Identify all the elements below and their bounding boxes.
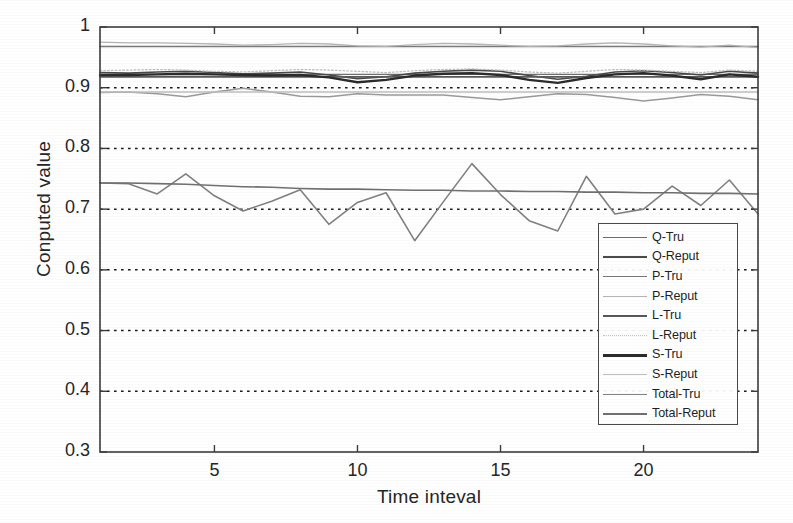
legend-item-total-tru: Total-Tru <box>599 384 737 404</box>
x-tick-label: 20 <box>619 460 669 481</box>
legend-item-s-reput: S-Reput <box>599 364 737 384</box>
legend-line-swatch <box>603 271 647 281</box>
legend-item-label: S-Tru <box>652 347 683 361</box>
legend-item-label: Total-Reput <box>652 406 715 420</box>
legend-item-q-reput: Q-Reput <box>599 247 737 267</box>
legend-item-p-reput: P-Reput <box>599 286 737 306</box>
legend-item-label: Total-Tru <box>652 387 700 401</box>
legend-item-label: S-Reput <box>652 367 698 381</box>
legend-item-label: Q-Tru <box>652 230 684 244</box>
x-axis-title: Time inteval <box>100 486 758 508</box>
legend-item-label: L-Reput <box>652 328 696 342</box>
y-tick-label: 0.6 <box>26 258 90 279</box>
legend-line-swatch <box>603 408 647 418</box>
legend: Q-TruQ-ReputP-TruP-ReputL-TruL-ReputS-Tr… <box>598 223 738 425</box>
legend-item-label: Q-Reput <box>652 249 699 263</box>
chart-figure: Conputed value Time inteval 0.30.40.50.6… <box>0 0 793 523</box>
y-tick-label: 0.3 <box>26 440 90 461</box>
data-series-layer <box>100 42 758 241</box>
y-tick-label: 0.5 <box>26 319 90 340</box>
legend-item-label: P-Tru <box>652 269 683 283</box>
legend-item-s-tru: S-Tru <box>599 345 737 365</box>
legend-item-label: P-Reput <box>652 289 698 303</box>
x-tick-label: 5 <box>189 460 239 481</box>
y-tick-label: 0.9 <box>26 76 90 97</box>
series-line-total-reput <box>100 183 758 194</box>
legend-item-q-tru: Q-Tru <box>599 227 737 247</box>
series-line-s-tru <box>100 73 758 83</box>
legend-line-swatch <box>603 310 647 320</box>
y-tick-label: 0.7 <box>26 197 90 218</box>
legend-line-swatch <box>603 291 647 301</box>
y-tick-label: 0.8 <box>26 136 90 157</box>
series-line-upper-band-wave <box>100 88 758 101</box>
legend-item-p-tru: P-Tru <box>599 266 737 286</box>
y-tick-label: 1 <box>26 15 90 36</box>
legend-line-swatch <box>603 251 647 261</box>
y-tick-label: 0.4 <box>26 379 90 400</box>
legend-item-total-reput: Total-Reput <box>599 403 737 423</box>
legend-line-swatch <box>603 369 647 379</box>
x-tick-label: 10 <box>332 460 382 481</box>
legend-item-l-tru: L-Tru <box>599 305 737 325</box>
legend-line-swatch <box>603 330 647 340</box>
legend-item-l-reput: L-Reput <box>599 325 737 345</box>
legend-item-label: L-Tru <box>652 308 681 322</box>
legend-line-swatch <box>603 232 647 242</box>
x-tick-label: 15 <box>476 460 526 481</box>
legend-line-swatch <box>603 349 647 359</box>
legend-line-swatch <box>603 389 647 399</box>
